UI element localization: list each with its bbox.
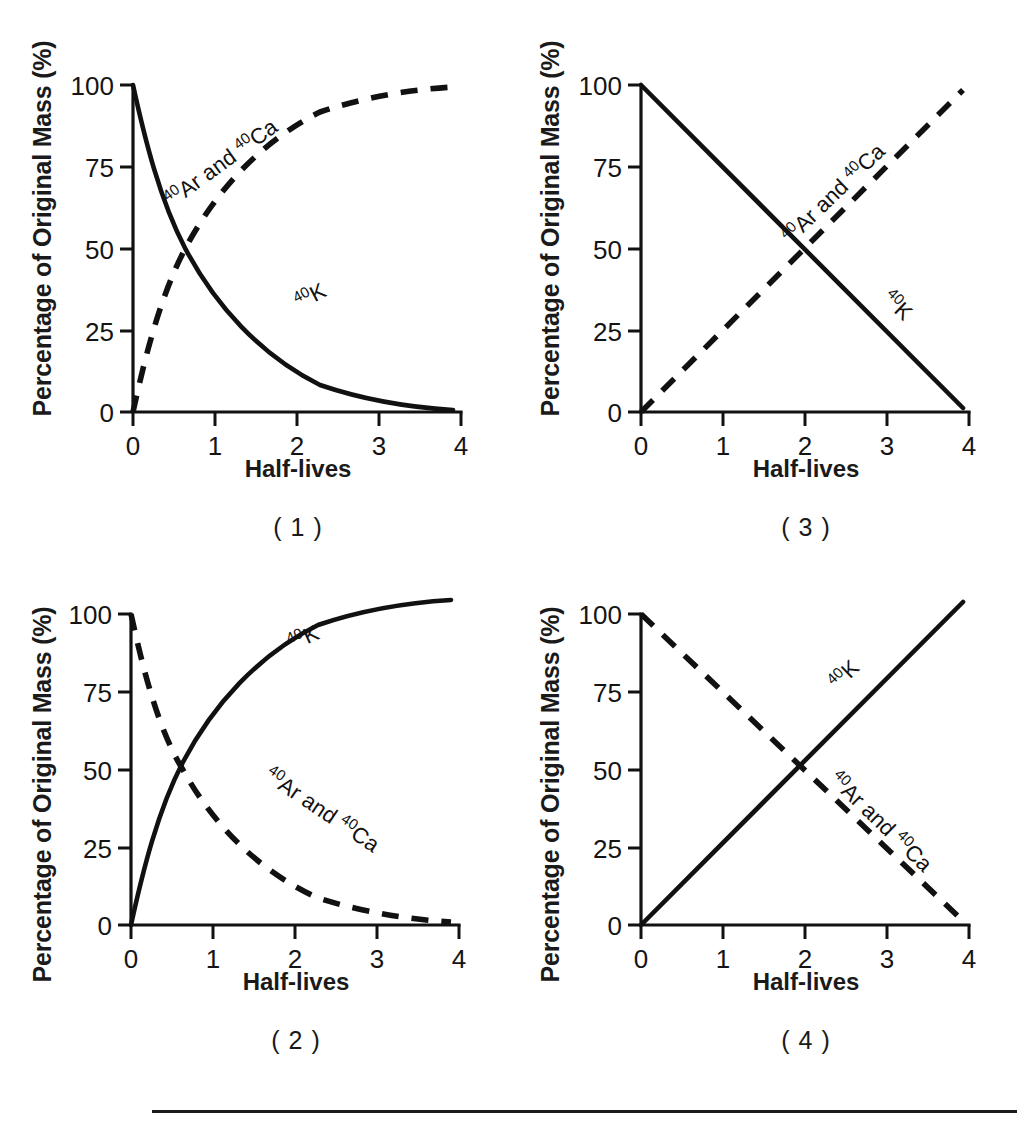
label-ar-and: Ar and — [789, 170, 857, 237]
curve-ar40ca40 — [131, 614, 451, 922]
curve-k40 — [641, 85, 963, 408]
series-label-ar40ca40: 40Ar and 40Ca — [825, 765, 940, 877]
panel-caption-3: ( 3 ) — [641, 513, 971, 542]
series-label-ar40ca40: 40Ar and 40Ca — [775, 136, 890, 248]
svg-text:40Ar and 40Ca: 40Ar and 40Ca — [159, 112, 283, 213]
y-tick-label-0: 0 — [608, 398, 622, 428]
panel-caption-1: ( 1 ) — [133, 513, 463, 542]
series-label-ar40ca40: 40Ar and 40Ca — [260, 760, 386, 857]
y-tick-label-75: 75 — [85, 153, 114, 183]
svg-text:40K: 40K — [822, 653, 864, 695]
y-tick-label-100: 100 — [71, 71, 114, 101]
panel-caption-2: ( 2 ) — [131, 1026, 461, 1055]
x-axis-title: Half-lives — [641, 455, 971, 483]
axis-lines — [133, 85, 461, 412]
y-tick-label-25: 25 — [85, 317, 114, 347]
y-tick-label-50: 50 — [593, 235, 622, 265]
x-axis-title: Half-lives — [641, 968, 971, 996]
four-panel-decay-figure: Percentage of Original Mass (%) 100 75 5… — [0, 0, 1017, 1133]
chart-panel-2: Percentage of Original Mass (%) 100 75 5… — [0, 566, 509, 1132]
y-tick-label-100: 100 — [69, 600, 112, 630]
y-tick-label-0: 0 — [98, 911, 112, 941]
svg-text:40Ar and 40Ca: 40Ar and 40Ca — [825, 765, 940, 877]
y-tick-label-75: 75 — [83, 678, 112, 708]
y-tick-label-50: 50 — [85, 235, 114, 265]
curve-ar40ca40 — [641, 90, 963, 412]
label-ca: Ca — [245, 114, 283, 151]
curve-ar40ca40 — [133, 87, 453, 412]
y-tick-label-0: 0 — [100, 398, 114, 428]
curve-k40 — [133, 85, 453, 410]
series-label-ar40ca40: 40Ar and 40Ca — [159, 112, 283, 213]
x-axis-title: Half-lives — [131, 968, 461, 996]
y-tick-label-0: 0 — [608, 911, 622, 941]
series-label-k40: 40K — [822, 653, 864, 695]
svg-text:40K: 40K — [289, 275, 330, 314]
panel-caption-4: ( 4 ) — [641, 1026, 971, 1055]
label-k: K — [305, 277, 330, 306]
svg-text:40K: 40K — [878, 284, 920, 326]
chart-panel-1: Percentage of Original Mass (%) 100 75 5… — [0, 0, 509, 566]
chart-panel-3: Percentage of Original Mass (%) 100 75 5… — [508, 0, 1017, 566]
y-tick-label-50: 50 — [593, 756, 622, 786]
y-tick-label-50: 50 — [83, 756, 112, 786]
curve-k40 — [641, 602, 963, 925]
y-tick-label-100: 100 — [579, 71, 622, 101]
svg-text:40Ar and 40Ca: 40Ar and 40Ca — [260, 760, 386, 857]
bottom-divider-rule — [152, 1110, 1017, 1113]
y-tick-label-75: 75 — [593, 153, 622, 183]
y-tick-label-25: 25 — [83, 834, 112, 864]
svg-text:40Ar and 40Ca: 40Ar and 40Ca — [775, 136, 890, 248]
y-tick-label-75: 75 — [593, 678, 622, 708]
chart-panel-4: Percentage of Original Mass (%) 100 75 5… — [508, 566, 1017, 1132]
label-ar-and: Ar and — [274, 772, 347, 832]
series-label-k40: 40K — [289, 275, 330, 314]
label-ar-and: Ar and — [174, 140, 246, 202]
y-tick-label-25: 25 — [593, 834, 622, 864]
y-tick-label-25: 25 — [593, 317, 622, 347]
y-tick-label-100: 100 — [579, 600, 622, 630]
series-label-k40: 40K — [878, 284, 920, 326]
x-axis-title: Half-lives — [133, 455, 463, 483]
